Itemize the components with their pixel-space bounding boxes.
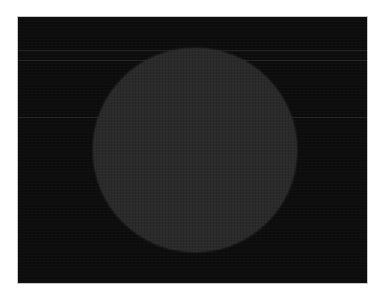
dark-frame [18,17,367,283]
gray-disk [93,48,297,252]
image-canvas [0,0,381,297]
